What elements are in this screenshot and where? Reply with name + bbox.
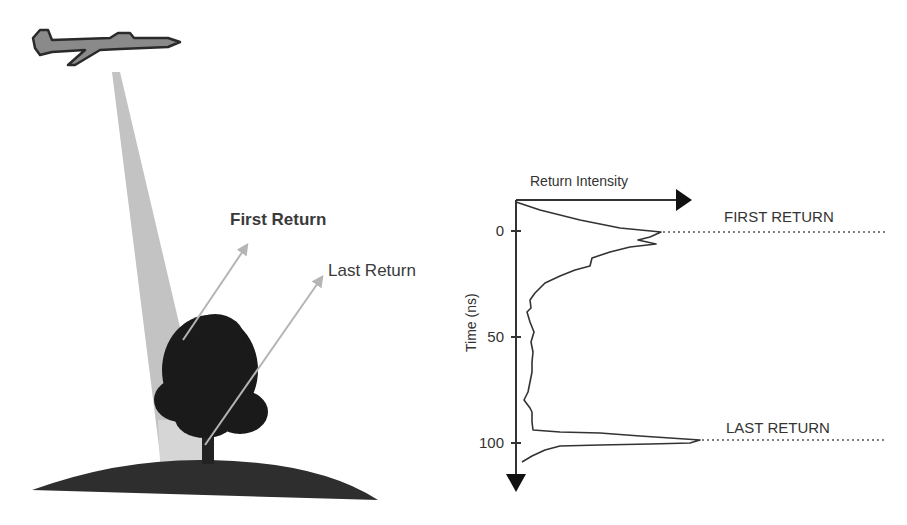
x-axis-label: Return Intensity [530, 173, 628, 189]
waveform-line [516, 202, 700, 462]
last-return-label: Last Return [328, 261, 416, 281]
first-return-label: First Return [230, 210, 326, 230]
ground-hill [32, 460, 378, 500]
lidar-diagram [0, 0, 907, 525]
y-axis-arrowhead [506, 474, 526, 492]
airplane-icon [33, 30, 180, 65]
tick-label-100: 100 [474, 434, 504, 451]
first-return-annotation: FIRST RETURN [724, 208, 834, 225]
tick-label-50: 50 [474, 328, 504, 345]
x-axis-arrowhead [676, 189, 692, 211]
tick-label-0: 0 [474, 222, 504, 239]
last-return-annotation: LAST RETURN [726, 419, 830, 436]
